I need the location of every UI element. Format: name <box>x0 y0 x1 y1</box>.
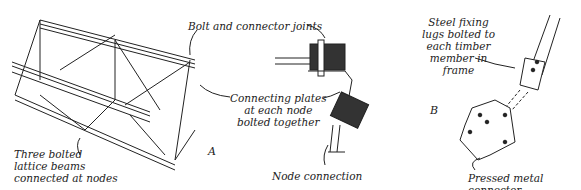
label-connecting-plates: Connecting plates at each node bolted to… <box>230 92 327 128</box>
panel-letter-a: A <box>208 145 216 158</box>
label-three-bolted-lattice-beams: Three bolted lattice beams connected at … <box>14 148 118 184</box>
panel-letter-b: B <box>430 104 438 117</box>
label-bolt-and-connector-joints: Bolt and connector joints <box>188 20 322 32</box>
label-node-connection: Node connection <box>272 170 362 182</box>
label-pressed-metal-connector: Pressed metal connector <box>468 172 581 190</box>
diagram-canvas: Three bolted lattice beams connected at … <box>0 0 581 190</box>
label-steel-fixing-lugs: Steel fixing lugs bolted to each timber … <box>422 16 495 76</box>
